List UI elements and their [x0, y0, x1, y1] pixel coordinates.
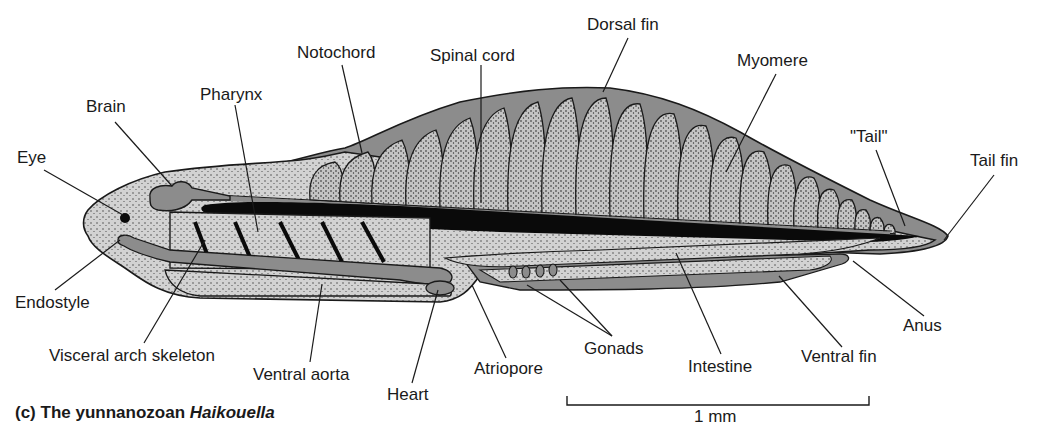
caption-prefix: (c) — [15, 403, 36, 422]
caption-genus: Haikouella — [190, 403, 275, 422]
leader-atriopore — [472, 285, 506, 358]
label-anus: Anus — [903, 317, 942, 334]
label-myomere: Myomere — [737, 52, 808, 69]
label-pharynx: Pharynx — [200, 86, 262, 103]
label-dorsal-fin: Dorsal fin — [587, 16, 659, 33]
label-endostyle: Endostyle — [15, 294, 90, 311]
leader-endostyle — [55, 240, 120, 290]
leader-tail-fin — [944, 175, 994, 240]
label-tail-fin: Tail fin — [970, 152, 1018, 169]
label-visceral-arch-skeleton: Visceral arch skeleton — [49, 347, 215, 364]
leader-gonads-1 — [527, 285, 612, 336]
leader-dorsal-fin — [603, 38, 628, 92]
label-intestine: Intestine — [688, 358, 752, 375]
leader-ventral-fin — [779, 276, 842, 347]
caption-text: The yunnanozoan — [41, 403, 186, 422]
label-gonads: Gonads — [584, 340, 644, 357]
leader-heart — [412, 290, 438, 383]
label-notochord: Notochord — [297, 44, 375, 61]
label-tail: "Tail" — [850, 128, 888, 145]
leader-anus — [853, 261, 924, 316]
label-ventral-aorta: Ventral aorta — [253, 366, 349, 383]
label-ventral-fin: Ventral fin — [801, 348, 877, 365]
heart — [426, 281, 454, 295]
label-atriopore: Atriopore — [474, 360, 543, 377]
label-spinal-cord: Spinal cord — [430, 47, 515, 64]
leader-notochord — [342, 65, 362, 153]
label-brain: Brain — [86, 98, 126, 115]
scale-bar-label: 1 mm — [694, 407, 737, 427]
scale-bar — [567, 396, 869, 405]
haikouella-diagram — [0, 0, 1041, 448]
label-eye: Eye — [17, 149, 46, 166]
leader-brain — [115, 122, 172, 186]
figure-caption: (c) The yunnanozoan Haikouella — [15, 403, 275, 423]
label-heart: Heart — [387, 386, 429, 403]
